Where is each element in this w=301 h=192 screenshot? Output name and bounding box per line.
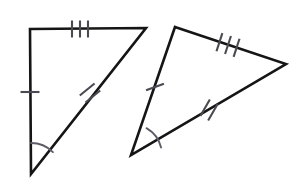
geometry-canvas [0,0,301,192]
geometry-figure [0,0,301,192]
